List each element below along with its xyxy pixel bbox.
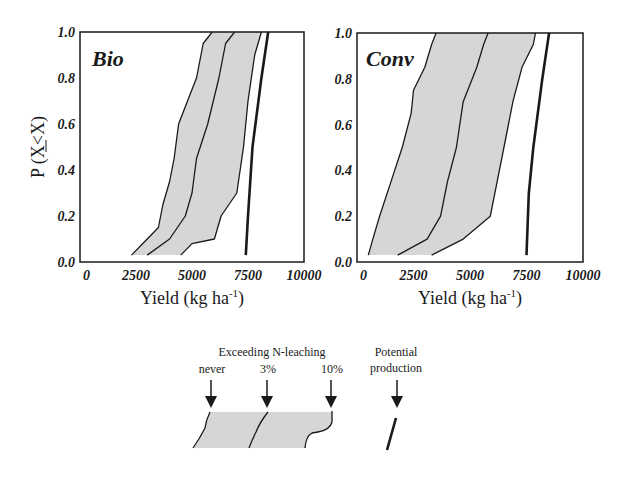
legend-potential-label-1: Potential: [375, 345, 418, 359]
panel-bio: Bio 0.00.20.40.60.81.0 02500500075001000…: [58, 25, 322, 309]
legend-line-potential: [387, 418, 396, 450]
x-tick-label: 2500: [399, 268, 428, 283]
x-tick-label: 5000: [456, 268, 484, 283]
panel-label-bio: Bio: [91, 46, 124, 71]
x-axis-label-conv: Yield (kg ha-1): [418, 287, 522, 309]
y-tick-label: 0.2: [335, 209, 353, 224]
x-tick-label: 7500: [513, 268, 541, 283]
shaded-band: [132, 32, 262, 255]
y-tick-label: 0.4: [58, 163, 76, 178]
x-tick-label: 10000: [566, 268, 601, 283]
legend-potential-label-2: production: [370, 361, 422, 375]
legend-arrow-potential: [391, 380, 403, 408]
x-ticks-bio: 025005000750010000: [83, 268, 322, 283]
x-ticks-conv: 025005000750010000: [360, 268, 601, 283]
shaded-band-bio: [132, 32, 262, 255]
y-tick-label: 0.6: [58, 117, 76, 132]
legend-arrow-10pct: [325, 380, 337, 408]
y-tick-label: 1.0: [335, 26, 353, 41]
legend-arrow-3pct: [261, 380, 273, 408]
y-ticks-conv: 0.00.20.40.60.81.0: [335, 26, 353, 270]
y-tick-label: 0.8: [58, 71, 76, 86]
y-tick-label: 0.6: [335, 118, 353, 133]
legend-never-label: never: [199, 362, 226, 376]
y-ticks-bio: 0.00.20.40.60.81.0: [58, 25, 76, 270]
x-tick-label: 0: [360, 268, 367, 283]
x-tick-label: 7500: [234, 268, 262, 283]
legend-10pct-label: 10%: [321, 362, 343, 376]
panel-conv: Conv 0.00.20.40.60.81.0 0250050007500100…: [335, 26, 601, 309]
legend: Exceeding N-leaching never 3% 10% Potent…: [193, 345, 422, 450]
legend-3pct-label: 3%: [260, 362, 276, 376]
y-tick-label: 0.4: [335, 163, 353, 178]
x-tick-label: 5000: [178, 268, 206, 283]
x-tick-label: 10000: [287, 268, 322, 283]
x-tick-label: 2500: [121, 268, 150, 283]
figure: P (X<X) Bio 0.00.20.40.60.81.0 025005000…: [0, 0, 626, 482]
y-tick-label: 0.2: [58, 209, 76, 224]
y-tick-label: 1.0: [58, 25, 76, 40]
y-tick-label: 0.0: [58, 255, 76, 270]
curve-potential-production: [527, 33, 550, 255]
legend-arrow-never: [205, 380, 217, 408]
legend-band-swatch: [193, 412, 332, 448]
panel-label-conv: Conv: [366, 46, 414, 71]
x-axis-label-bio: Yield (kg ha-1): [140, 287, 244, 309]
legend-group-title: Exceeding N-leaching: [219, 345, 326, 359]
y-tick-label: 0.8: [335, 72, 353, 87]
x-tick-label: 0: [83, 268, 90, 283]
y-tick-label: 0.0: [335, 255, 353, 270]
